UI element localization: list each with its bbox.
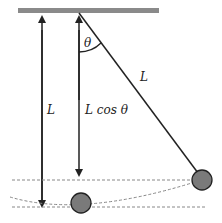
ceiling: [18, 8, 159, 13]
pendulum-bob-rest: [71, 193, 91, 213]
vertical-length-label: L: [46, 103, 55, 117]
cos-length-label: L cos θ: [84, 103, 129, 117]
theta-label: θ: [84, 36, 92, 50]
pendulum-bob-displaced: [192, 170, 212, 190]
pendulum-diagram: θ L L L cos θ: [0, 0, 222, 223]
diagram-canvas: θ L L L cos θ: [0, 0, 222, 223]
pendulum-string: [79, 13, 198, 173]
swing-arc: [10, 182, 195, 205]
string-length-label: L: [139, 70, 148, 84]
